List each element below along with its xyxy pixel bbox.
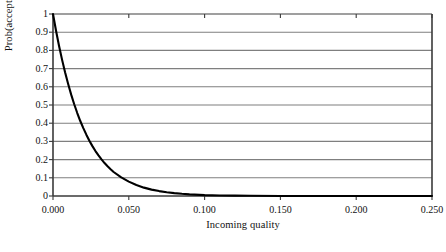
gridlines [53, 14, 432, 178]
plot-area [0, 0, 446, 252]
oc-curve-chart: Prob(acceptance) 00.10.20.30.40.50.60.70… [0, 0, 446, 252]
x-axis-title: Incoming quality [53, 219, 433, 230]
axis-ticks [49, 14, 432, 200]
